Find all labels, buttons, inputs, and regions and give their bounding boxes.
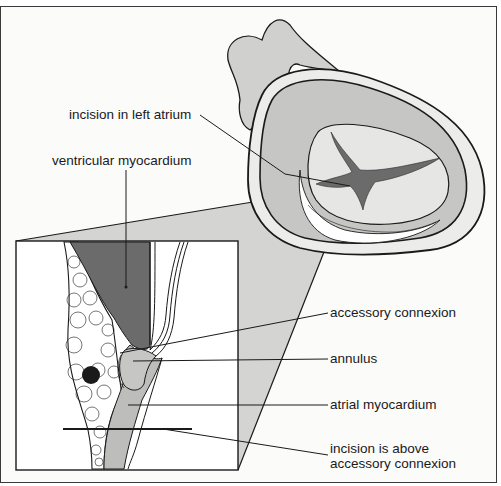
label-incision-above-line1: incision is above (330, 441, 429, 457)
label-incision-left-atrium: incision in left atrium (69, 107, 191, 123)
label-accessory-connexion: accessory connexion (330, 305, 456, 321)
coronary-artery (82, 366, 100, 384)
label-ventricular-myocardium: ventricular myocardium (52, 153, 192, 169)
label-atrial-myocardium: atrial myocardium (330, 397, 437, 413)
label-incision-above-line2: accessory connexion (330, 456, 456, 472)
label-annulus: annulus (330, 351, 377, 367)
diagram-artwork (0, 0, 501, 486)
